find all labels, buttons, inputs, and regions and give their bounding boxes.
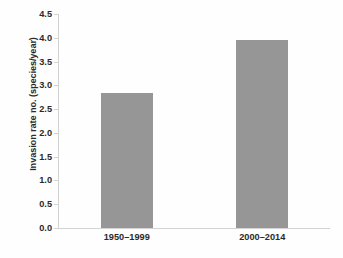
y-axis-tick-label: 4.0	[24, 33, 52, 43]
bar-chart: Invasion rate no. (species/year) 0.00.51…	[0, 0, 343, 258]
y-axis-tick-label: 2.5	[24, 104, 52, 114]
x-axis-tick-label: 2000–2014	[239, 232, 285, 242]
y-axis-tick-labels: 0.00.51.01.52.02.53.03.54.04.5	[24, 0, 52, 258]
x-axis-line	[58, 228, 330, 229]
x-axis-tick-label: 1950–1999	[104, 232, 150, 242]
y-axis-tick-label: 1.5	[24, 152, 52, 162]
y-axis-tick-label: 1.0	[24, 175, 52, 185]
y-axis-tick-label: 2.0	[24, 128, 52, 138]
plot-area	[59, 14, 330, 228]
y-axis-tick-label: 0.5	[24, 199, 52, 209]
y-axis-tick-label: 3.5	[24, 57, 52, 67]
x-axis-tick-labels: 1950–19992000–2014	[59, 232, 330, 252]
y-axis-tick-label: 4.5	[24, 9, 52, 19]
y-axis-tick-label: 0.0	[24, 223, 52, 233]
bar	[101, 93, 153, 228]
bar	[236, 40, 288, 228]
y-axis-tick-label: 3.0	[24, 80, 52, 90]
